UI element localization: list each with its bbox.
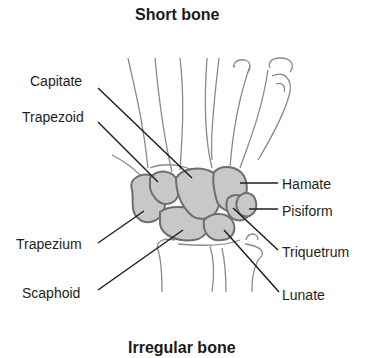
leader-trapezium <box>98 211 144 243</box>
label-trapezium: Trapezium <box>16 236 82 252</box>
leader-capitate <box>98 88 192 178</box>
label-hamate: Hamate <box>282 176 331 192</box>
leader-scaphoid <box>98 230 183 290</box>
leader-lunate <box>224 230 279 292</box>
label-triquetrum: Triquetrum <box>282 244 349 260</box>
label-scaphoid: Scaphoid <box>22 285 80 301</box>
label-trapezoid: Trapezoid <box>22 109 84 125</box>
title-irregular-bone: Irregular bone <box>128 339 236 357</box>
radius-ulna <box>157 234 262 292</box>
label-capitate: Capitate <box>30 73 82 89</box>
label-pisiform: Pisiform <box>282 203 333 219</box>
carpal-bones <box>131 167 256 240</box>
metacarpal-bones <box>112 58 292 175</box>
leader-trapezoid <box>98 122 158 182</box>
leader-triquetrum <box>233 208 278 250</box>
label-lunate: Lunate <box>282 287 325 303</box>
pisiform-bone <box>236 193 256 216</box>
